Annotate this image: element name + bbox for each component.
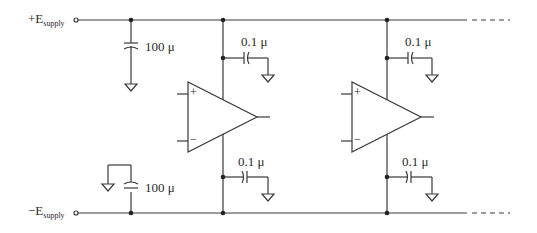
opamp2-top-cap-value: 0.1 μ: [405, 35, 431, 48]
bulk-capacitor-bottom: [102, 165, 138, 213]
bulk-capacitor-top: [124, 20, 138, 91]
negative-rail: [74, 211, 510, 215]
ground-icon: [262, 194, 274, 201]
opamp1-bottom-cap-value: 0.1 μ: [238, 155, 264, 168]
ground-icon: [426, 194, 438, 201]
opamp2-plus: +: [354, 86, 361, 98]
ground-icon: [125, 84, 137, 91]
opamp1-minus: −: [190, 133, 197, 145]
schematic-diagram: +Esupply −Esupply 100 μ 100 μ 0.1 μ 0.1 …: [0, 0, 537, 233]
ground-icon: [426, 75, 438, 82]
opamp2-minus: −: [354, 133, 361, 145]
opamp2-bottom-cap-value: 0.1 μ: [402, 155, 428, 168]
bulk-cap-top-value: 100 μ: [145, 40, 175, 53]
ground-icon: [102, 184, 114, 191]
opamp1-top-cap-value: 0.1 μ: [241, 35, 267, 48]
positive-supply-label: +Esupply: [28, 12, 65, 28]
schematic-drawing: [0, 0, 537, 233]
opamp1-plus: +: [190, 86, 197, 98]
negative-supply-label: −Esupply: [28, 204, 65, 220]
positive-rail: [74, 18, 510, 22]
ground-icon: [262, 75, 274, 82]
bulk-cap-bottom-value: 100 μ: [145, 181, 175, 194]
